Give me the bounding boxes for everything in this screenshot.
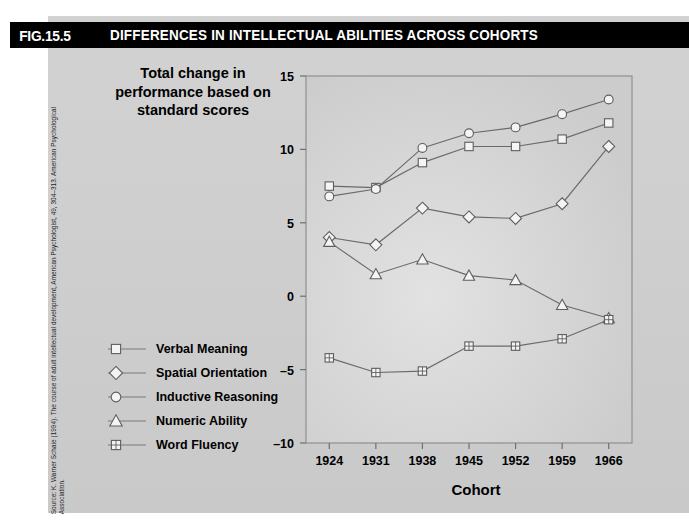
data-point-crossed-square xyxy=(558,335,566,343)
data-point-crossed-square xyxy=(372,368,380,376)
data-point-crossed-square xyxy=(465,342,473,350)
y-axis-tick-label: 10 xyxy=(280,143,294,157)
legend-marker-square-icon xyxy=(106,340,148,358)
legend-marker-triangle-icon xyxy=(106,412,148,430)
legend-item[interactable]: Word Fluency xyxy=(106,433,278,457)
legend-label: Inductive Reasoning xyxy=(156,390,278,404)
data-point-square xyxy=(418,158,426,166)
legend-item[interactable]: Numeric Ability xyxy=(106,409,278,433)
data-point-crossed-square xyxy=(511,342,519,350)
data-point-circle xyxy=(111,392,121,402)
data-point-circle xyxy=(371,185,380,194)
legend-item[interactable]: Inductive Reasoning xyxy=(106,385,278,409)
y-axis-tick-label: 15 xyxy=(280,70,294,84)
x-axis-tick-label: 1945 xyxy=(455,454,483,468)
x-axis-tick-label: 1959 xyxy=(548,454,576,468)
data-point-square xyxy=(558,135,566,143)
legend-marker-crossed-square-icon xyxy=(106,436,148,454)
x-axis-tick-label: 1938 xyxy=(409,454,437,468)
x-axis-tick-label: 1924 xyxy=(315,454,343,468)
data-point-circle xyxy=(325,192,334,201)
figure-container: FIG.15.5 DIFFERENCES IN INTELLECTUAL ABI… xyxy=(0,0,689,523)
data-point-square xyxy=(605,119,613,127)
data-point-crossed-square xyxy=(418,367,426,375)
legend-label: Word Fluency xyxy=(156,438,238,452)
data-point-crossed-square xyxy=(111,440,120,449)
x-axis-tick-label: 1931 xyxy=(362,454,390,468)
data-point-square xyxy=(111,344,120,353)
data-point-square xyxy=(325,182,333,190)
legend-marker-circle-icon xyxy=(106,388,148,406)
data-point-circle xyxy=(558,110,567,119)
data-point-circle xyxy=(465,129,474,138)
chart-legend: Verbal MeaningSpatial OrientationInducti… xyxy=(106,337,278,457)
data-point-crossed-square xyxy=(605,315,613,323)
data-point-circle xyxy=(604,95,613,104)
data-point-diamond xyxy=(109,366,122,379)
data-point-circle xyxy=(418,144,427,153)
data-point-crossed-square xyxy=(325,354,333,362)
y-axis-tick-label: 5 xyxy=(287,217,294,231)
x-axis-title: Cohort xyxy=(396,481,556,498)
legend-item[interactable]: Verbal Meaning xyxy=(106,337,278,361)
x-axis-tick-label: 1952 xyxy=(502,454,530,468)
x-axis-tick-label: 1966 xyxy=(595,454,623,468)
legend-label: Numeric Ability xyxy=(156,414,247,428)
legend-label: Verbal Meaning xyxy=(156,342,248,356)
y-axis-tick-label: 0 xyxy=(287,290,294,304)
data-point-square xyxy=(465,142,473,150)
y-axis-tick-label: –5 xyxy=(280,364,294,378)
data-point-circle xyxy=(511,123,520,132)
data-point-triangle xyxy=(110,415,122,426)
data-point-square xyxy=(511,142,519,150)
legend-marker-diamond-icon xyxy=(106,364,148,382)
legend-item[interactable]: Spatial Orientation xyxy=(106,361,278,385)
legend-label: Spatial Orientation xyxy=(156,366,267,380)
